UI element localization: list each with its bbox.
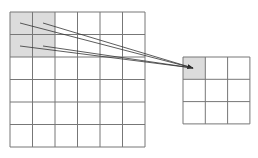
arrow-2 [43,23,193,68]
input-grid [10,12,145,147]
highlight-region [183,57,205,79]
output-grid [183,57,250,124]
pooling-diagram [0,0,258,158]
